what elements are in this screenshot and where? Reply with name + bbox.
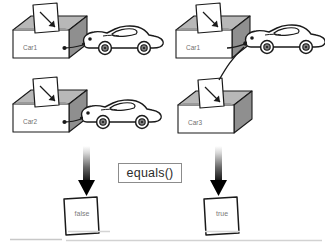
result-card-true	[204, 197, 239, 235]
diagram-canvas: Car1 Car2 Car1 Car3 equals() false true	[0, 0, 325, 245]
card-car1-right	[196, 3, 222, 33]
reference-dot-car1-left	[62, 46, 66, 50]
card-car1-left	[33, 3, 59, 33]
card-car2-left	[33, 77, 59, 107]
diagram-illustration	[0, 0, 325, 245]
bottom-dividers	[10, 232, 322, 241]
car-object-b	[80, 100, 161, 128]
car-object-shared	[244, 25, 325, 53]
right-group	[176, 3, 325, 235]
card-car3-right	[198, 78, 224, 108]
result-arrow-left	[78, 146, 95, 196]
result-card-false	[64, 197, 99, 235]
left-group	[13, 3, 163, 235]
equals-operator-label: equals()	[118, 163, 182, 183]
reference-dot-car2-left	[62, 120, 66, 124]
result-arrow-right	[210, 146, 227, 196]
car-object-a	[82, 26, 163, 54]
